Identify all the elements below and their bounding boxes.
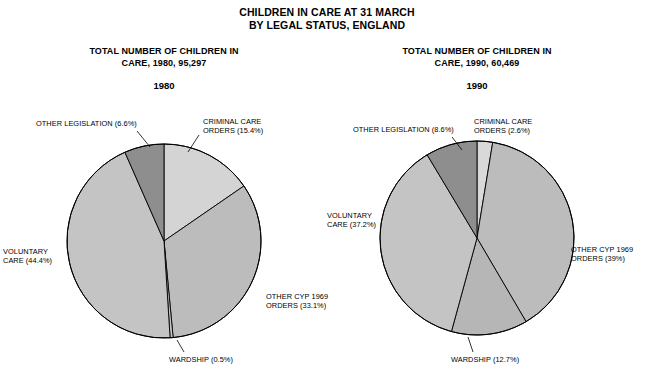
label-1980-voluntary-care: VOLUNTARY CARE (44.4%) [3,247,52,266]
pie-chart-1990 [380,141,574,335]
label-1980-other-cyp-orders: OTHER CYP 1969 ORDERS (33.1%) [266,292,328,311]
label-1980-other-cyp-orders-line-2: ORDERS (33.1%) [266,301,328,310]
label-1980-voluntary-care-line-2: CARE (44.4%) [3,256,52,265]
figure-root: CHILDREN IN CARE AT 31 MARCH BY LEGAL ST… [0,0,654,378]
label-1990-wardship: WARDSHIP (12.7%) [451,355,519,364]
label-1980-other-legislation: OTHER LEGISLATION (6.6%) [36,119,137,128]
label-1990-other-cyp-orders-line-1: OTHER CYP 1969 [571,245,633,254]
label-1990-voluntary-care: VOLUNTARY CARE (37.2%) [327,211,376,230]
label-1990-criminal-care-orders-line-2: ORDERS (2.6%) [474,126,532,135]
label-1990-other-legislation: OTHER LEGISLATION (8.6%) [353,125,454,134]
pie-charts-canvas [0,0,654,378]
label-1990-other-cyp-orders: OTHER CYP 1969 ORDERS (39%) [571,245,633,264]
label-1980-criminal-care-orders: CRIMINAL CARE ORDERS (15.4%) [203,117,263,136]
label-1980-other-cyp-orders-line-1: OTHER CYP 1969 [266,292,328,301]
label-1990-criminal-care-orders: CRIMINAL CARE ORDERS (2.6%) [474,117,532,136]
label-1990-voluntary-care-line-2: CARE (37.2%) [327,220,376,229]
label-1980-voluntary-care-line-1: VOLUNTARY [3,247,52,256]
label-1980-wardship: WARDSHIP (0.5%) [169,355,233,364]
label-1990-criminal-care-orders-line-1: CRIMINAL CARE [474,117,532,126]
pie-chart-1980 [67,144,261,338]
label-1990-other-cyp-orders-line-2: ORDERS (39%) [571,254,633,263]
label-1980-criminal-care-orders-line-2: ORDERS (15.4%) [203,126,263,135]
label-1990-voluntary-care-line-1: VOLUNTARY [327,211,376,220]
label-1980-criminal-care-orders-line-1: CRIMINAL CARE [203,117,263,126]
